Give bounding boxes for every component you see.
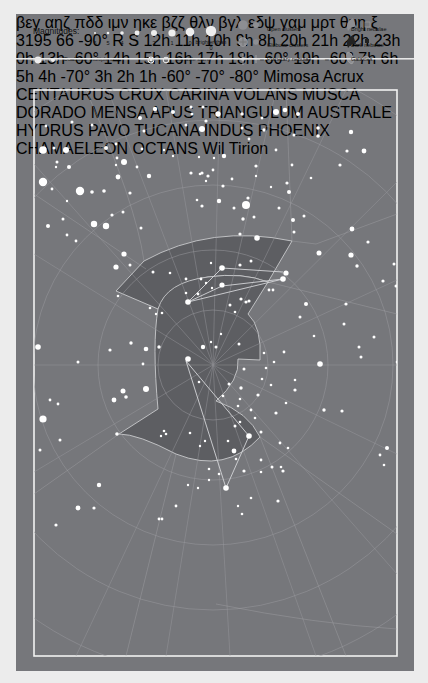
galaxies-label: Galaxies [351,56,372,62]
planetary-nebulae-label: Planetary nebulae [267,56,311,62]
star-map [16,14,414,671]
star-chart-panel: Magnitudes: 6 5 4 3 2 1 0 brighter than … [16,14,414,671]
legend-glyphs [31,18,370,65]
